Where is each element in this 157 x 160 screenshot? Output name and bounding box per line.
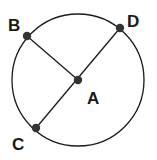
label-a: A [87, 89, 99, 108]
label-c: C [12, 135, 24, 154]
point-b [23, 32, 31, 40]
point-c [32, 124, 40, 132]
label-d: D [127, 12, 139, 31]
label-b: B [8, 16, 20, 35]
circle-diagram: A B C D [0, 0, 157, 160]
point-d [116, 24, 124, 32]
point-a [74, 76, 82, 84]
segment-b-a [27, 36, 78, 80]
